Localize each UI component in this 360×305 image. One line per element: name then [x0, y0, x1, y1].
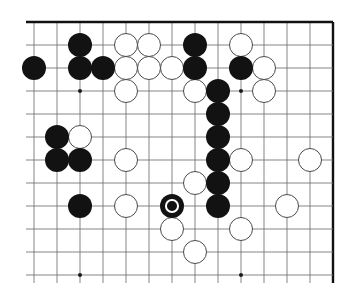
circle-marker-icon [165, 199, 179, 213]
go-board-container [0, 0, 360, 305]
hoshi-point [239, 273, 243, 277]
hoshi-point [78, 89, 82, 93]
hoshi-point [78, 273, 82, 277]
hoshi-point [239, 89, 243, 93]
